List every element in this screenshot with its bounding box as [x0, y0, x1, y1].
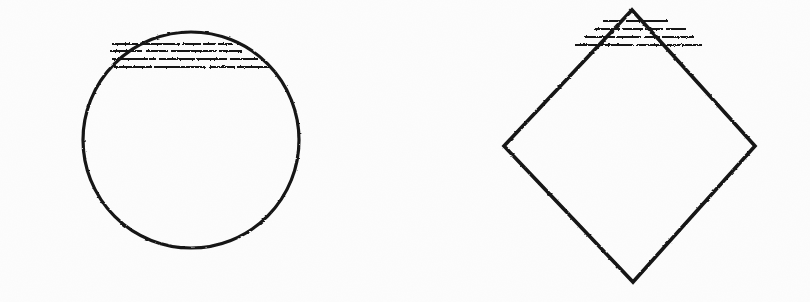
technical-drawing-canvas	[0, 0, 810, 302]
drawing-sheet	[0, 0, 810, 302]
